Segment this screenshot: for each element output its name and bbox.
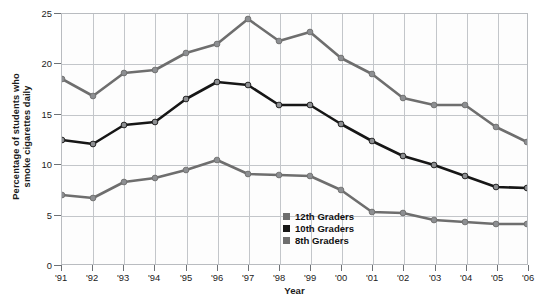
data-point: [121, 122, 127, 128]
data-point: [62, 192, 65, 198]
data-point: [183, 50, 189, 56]
data-point: [431, 102, 437, 108]
y-axis-tick: [54, 114, 61, 115]
x-axis-tick: [186, 265, 187, 271]
data-point: [493, 124, 499, 130]
x-axis-tick: [528, 265, 529, 271]
data-point: [369, 138, 375, 144]
y-axis-tick-label: 10: [0, 159, 52, 170]
x-axis-tick-label: '95: [169, 272, 203, 283]
data-point: [276, 38, 282, 44]
legend-label: 12th Graders: [295, 211, 354, 222]
legend-item: 8th Graders: [283, 235, 354, 246]
y-axis-title-line2: smoke cigarettes daily: [22, 73, 33, 200]
legend-label: 10th Graders: [295, 223, 354, 234]
data-point: [338, 121, 344, 127]
x-axis-tick-label: '02: [386, 272, 420, 283]
data-point: [400, 153, 406, 159]
x-axis-tick-label: '00: [324, 272, 358, 283]
x-axis-tick-label: '01: [355, 272, 389, 283]
y-axis-tick-label: 5: [0, 209, 52, 220]
x-axis-tick: [217, 265, 218, 271]
data-point: [121, 179, 127, 185]
x-axis-tick-label: '93: [106, 272, 140, 283]
x-axis-tick: [341, 265, 342, 271]
chart-figure: Percentage of students who smoke cigaret…: [0, 0, 542, 301]
data-point: [400, 95, 406, 101]
data-point: [245, 171, 251, 177]
data-point: [493, 184, 499, 190]
chart-legend: 12th Graders10th Graders8th Graders: [283, 211, 354, 246]
legend-swatch-icon: [283, 237, 290, 244]
x-axis-tick: [154, 265, 155, 271]
series-12th-graders: [62, 16, 527, 145]
y-axis-tick: [54, 164, 61, 165]
data-point: [183, 167, 189, 173]
data-point: [152, 119, 158, 125]
x-axis-tick-label: '98: [262, 272, 296, 283]
x-axis-tick-label: '96: [200, 272, 234, 283]
data-point: [307, 102, 313, 108]
y-axis-tick: [54, 265, 61, 266]
data-point: [524, 221, 527, 227]
data-point: [431, 217, 437, 223]
y-axis-title-line1: Percentage of students who: [11, 73, 21, 200]
x-axis-tick: [403, 265, 404, 271]
x-axis-tick-label: '03: [418, 272, 452, 283]
data-point: [90, 195, 96, 201]
x-axis-tick: [435, 265, 436, 271]
data-point: [183, 96, 189, 102]
data-point: [431, 162, 437, 168]
series-10th-graders: [62, 79, 527, 191]
x-axis-tick-label: '92: [75, 272, 109, 283]
data-point: [214, 79, 220, 85]
x-axis-tick-label: '97: [231, 272, 265, 283]
data-point: [214, 41, 220, 47]
legend-item: 12th Graders: [283, 211, 354, 222]
y-axis-tick-label: 15: [0, 108, 52, 119]
data-point: [338, 55, 344, 61]
x-axis-tick: [372, 265, 373, 271]
x-axis-tick: [123, 265, 124, 271]
x-axis-tick: [497, 265, 498, 271]
data-point: [90, 141, 96, 147]
data-point: [307, 29, 313, 35]
legend-swatch-icon: [283, 225, 290, 232]
legend-label: 8th Graders: [295, 235, 349, 246]
y-axis-tick: [54, 13, 61, 14]
data-point: [462, 173, 468, 179]
series-line: [62, 82, 527, 188]
data-point: [62, 137, 65, 143]
data-point: [524, 139, 527, 145]
x-axis-tick-label: '91: [44, 272, 78, 283]
data-point: [493, 221, 499, 227]
data-point: [369, 209, 375, 215]
x-axis-tick: [248, 265, 249, 271]
y-axis-tick-label: 20: [0, 58, 52, 69]
x-axis-tick: [466, 265, 467, 271]
data-point: [338, 187, 344, 193]
data-point: [214, 157, 220, 163]
x-axis-tick: [61, 265, 62, 271]
data-point: [462, 102, 468, 108]
y-axis-tick: [54, 215, 61, 216]
data-point: [245, 16, 251, 22]
y-axis-title: Percentage of students who smoke cigaret…: [0, 0, 44, 272]
data-point: [245, 82, 251, 88]
x-axis-tick-label: '04: [449, 272, 483, 283]
data-point: [462, 219, 468, 225]
data-point: [400, 210, 406, 216]
legend-swatch-icon: [283, 213, 290, 220]
x-axis-tick: [279, 265, 280, 271]
legend-item: 10th Graders: [283, 223, 354, 234]
data-point: [62, 76, 65, 82]
data-point: [152, 67, 158, 73]
x-axis-title: Year: [61, 285, 528, 296]
x-axis-tick: [310, 265, 311, 271]
x-axis-tick-label: '99: [293, 272, 327, 283]
data-point: [276, 172, 282, 178]
y-axis-tick-label: 0: [0, 260, 52, 271]
data-point: [276, 102, 282, 108]
x-axis-tick-label: '05: [480, 272, 514, 283]
data-point: [90, 93, 96, 99]
